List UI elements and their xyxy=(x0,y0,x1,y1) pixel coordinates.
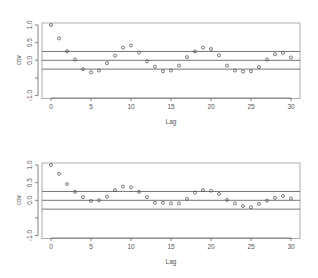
y-tick-label: 0.0 xyxy=(26,55,33,64)
y-tick-label: 0.5 xyxy=(26,38,33,47)
data-point xyxy=(202,46,205,49)
x-tick-label: 20 xyxy=(207,103,215,110)
y-tick-label: 1.0 xyxy=(26,20,33,29)
data-point xyxy=(250,70,253,73)
x-tick-label: 15 xyxy=(167,103,175,110)
x-tick-label: 0 xyxy=(49,243,53,250)
x-tick-label: 25 xyxy=(247,243,255,250)
x-tick-label: 0 xyxy=(49,103,53,110)
data-point xyxy=(154,201,157,204)
data-point xyxy=(178,64,181,67)
data-point xyxy=(274,53,277,56)
y-tick-label: -1.0 xyxy=(26,230,33,242)
data-point xyxy=(122,46,125,49)
data-point xyxy=(130,44,133,47)
acf-panel-2: 1.00.50.0-1.0cov051015202530Lag xyxy=(15,160,300,266)
y-axis-label: cov xyxy=(15,194,22,205)
acf-figure: 1.00.50.0-1.0cov051015202530Lag1.00.50.0… xyxy=(0,0,318,278)
data-point xyxy=(258,66,261,69)
data-point xyxy=(186,56,189,59)
data-point xyxy=(106,62,109,65)
data-point xyxy=(154,65,157,68)
y-axis-label: cov xyxy=(15,54,22,65)
data-point xyxy=(58,37,61,40)
data-point xyxy=(274,196,277,199)
data-point xyxy=(162,201,165,204)
data-point xyxy=(130,186,133,189)
data-point xyxy=(290,56,293,59)
x-axis-label: Lag xyxy=(166,118,177,126)
data-point xyxy=(90,71,93,74)
y-tick-label: 1.0 xyxy=(26,160,33,169)
x-tick-label: 15 xyxy=(167,243,175,250)
data-point xyxy=(162,70,165,73)
data-point xyxy=(170,202,173,205)
x-tick-label: 30 xyxy=(287,103,295,110)
data-point xyxy=(242,70,245,73)
x-tick-label: 10 xyxy=(127,243,135,250)
data-point xyxy=(106,195,109,198)
x-tick-label: 10 xyxy=(127,103,135,110)
data-point xyxy=(114,54,117,57)
acf-plots: 1.00.50.0-1.0cov051015202530Lag1.00.50.0… xyxy=(0,0,318,278)
plot-frame xyxy=(42,23,300,99)
data-point xyxy=(218,192,221,195)
data-point xyxy=(82,196,85,199)
x-tick-label: 25 xyxy=(247,103,255,110)
data-point xyxy=(258,202,261,205)
data-point xyxy=(66,183,69,186)
acf-panel-1: 1.00.50.0-1.0cov051015202530Lag xyxy=(15,20,300,126)
data-point xyxy=(290,197,293,200)
x-tick-label: 5 xyxy=(89,243,93,250)
x-tick-label: 20 xyxy=(207,243,215,250)
data-point xyxy=(234,202,237,205)
data-point xyxy=(210,48,213,51)
data-point xyxy=(178,202,181,205)
data-point xyxy=(218,54,221,57)
data-point xyxy=(282,195,285,198)
data-point xyxy=(250,206,253,209)
data-point xyxy=(58,172,61,175)
data-point xyxy=(242,204,245,207)
data-point xyxy=(50,164,53,167)
data-point xyxy=(226,64,229,67)
data-point xyxy=(146,196,149,199)
data-point xyxy=(50,24,53,27)
data-point xyxy=(122,185,125,188)
y-tick-label: -1.0 xyxy=(26,90,33,102)
x-tick-label: 30 xyxy=(287,243,295,250)
x-axis-label: Lag xyxy=(166,258,177,266)
y-tick-label: 0.5 xyxy=(26,178,33,187)
x-tick-label: 5 xyxy=(89,103,93,110)
y-tick-label: 0.0 xyxy=(26,195,33,204)
plot-frame xyxy=(42,163,300,239)
